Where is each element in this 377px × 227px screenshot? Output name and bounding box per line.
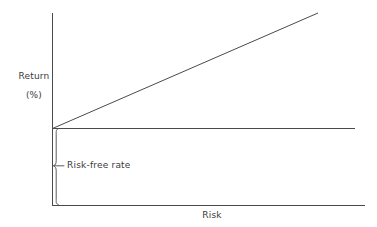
risk-free-rate-brace xyxy=(54,129,59,205)
capital-market-line-figure: Return (%) Risk-free rate Risk xyxy=(0,0,377,227)
capital-market-line xyxy=(53,13,319,129)
risk-free-rate-annotation-label: Risk-free rate xyxy=(67,161,131,170)
x-axis-title: Risk xyxy=(172,211,252,220)
y-axis-units-label: (%) xyxy=(14,91,54,100)
chart-plot-area xyxy=(0,0,377,227)
y-axis-title: Return xyxy=(14,72,54,81)
